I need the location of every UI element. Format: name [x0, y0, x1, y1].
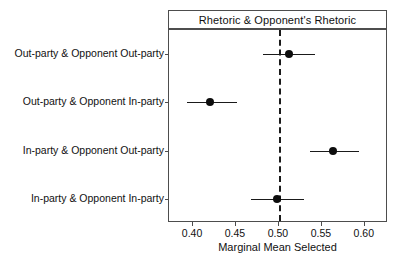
reference-line-0.50 — [279, 30, 281, 221]
plot-area — [169, 30, 386, 221]
data-point — [285, 50, 293, 58]
y-tick-mark — [165, 102, 169, 103]
panel-title: Rhetoric & Opponent's Rhetoric — [199, 14, 356, 26]
x-tick-label: 0.50 — [268, 227, 288, 239]
y-tick-mark — [165, 199, 169, 200]
marginal-means-figure: Rhetoric & Opponent's Rhetoric Out-party… — [0, 0, 394, 264]
x-tick-mark — [278, 222, 279, 226]
data-point — [206, 98, 214, 106]
x-tick-label: 0.60 — [354, 227, 374, 239]
y-axis: Out-party & Opponent Out-partyOut-party … — [0, 29, 164, 222]
y-tick-label: Out-party & Opponent In-party — [23, 95, 164, 107]
x-tick-mark — [321, 222, 322, 226]
x-axis: 0.400.450.500.550.60 — [168, 222, 387, 242]
x-tick-label: 0.55 — [311, 227, 331, 239]
y-tick-label: In-party & Opponent Out-party — [23, 144, 164, 156]
x-axis-title: Marginal Mean Selected — [168, 241, 387, 254]
y-tick-label: In-party & Opponent In-party — [31, 192, 164, 204]
x-tick-label: 0.40 — [182, 227, 202, 239]
facet-strip: Rhetoric & Opponent's Rhetoric — [168, 10, 387, 29]
x-tick-mark — [192, 222, 193, 226]
y-tick-mark — [165, 151, 169, 152]
x-tick-mark — [235, 222, 236, 226]
x-tick-label: 0.45 — [225, 227, 245, 239]
plot-panel — [168, 29, 387, 222]
x-tick-mark — [364, 222, 365, 226]
y-tick-mark — [165, 54, 169, 55]
y-tick-label: Out-party & Opponent Out-party — [15, 47, 164, 59]
data-point — [329, 147, 337, 155]
